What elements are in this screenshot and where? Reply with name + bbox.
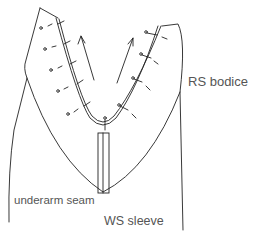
pins-right	[104, 31, 167, 130]
bodice-outline-right	[162, 24, 183, 230]
label-underarm-seam: underarm seam	[14, 194, 95, 206]
sleeve-curve	[27, 78, 180, 192]
bodice-outline-left	[9, 8, 58, 222]
armhole-seam-inner	[59, 19, 161, 122]
pins-left	[40, 21, 90, 115]
arrow-left	[78, 36, 94, 80]
arrow-right	[117, 38, 133, 83]
label-rs-bodice: RS bodice	[188, 74, 248, 89]
label-ws-sleeve: WS sleeve	[104, 214, 164, 228]
underarm-seam-strip	[98, 133, 109, 193]
armhole-seam-outer	[56, 18, 158, 125]
